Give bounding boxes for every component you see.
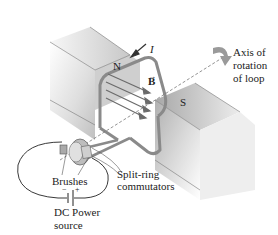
battery-minus-label: − xyxy=(62,184,67,196)
current-arrow xyxy=(131,44,146,57)
power-source-label-line-1: DC Power xyxy=(54,206,100,218)
axis-label-line-2: rotation xyxy=(233,59,267,71)
diagram-canvas xyxy=(0,0,278,235)
battery-icon xyxy=(68,190,73,206)
commutators-label-line-1: Split-ring xyxy=(117,168,159,180)
south-pole-label: S xyxy=(180,96,186,108)
commutators-label-line-2: commutators xyxy=(117,180,174,192)
rotation-arrow-icon xyxy=(213,47,232,66)
vector-arrow-icon: → xyxy=(148,71,156,83)
north-pole-label: N xyxy=(113,60,121,72)
power-source-label-line-2: source xyxy=(54,219,83,231)
magnetic-field-label: → B xyxy=(148,75,155,87)
axis-label-line-3: of loop xyxy=(233,72,264,84)
dc-motor-diagram: N S I → B Axis of rotation of loop Brush… xyxy=(0,0,278,235)
battery-plus-label: + xyxy=(75,184,80,196)
current-label: I xyxy=(150,43,154,55)
brushes-label: Brushes xyxy=(52,175,87,187)
axis-label-line-1: Axis of xyxy=(233,46,266,58)
north-magnet xyxy=(50,27,140,140)
